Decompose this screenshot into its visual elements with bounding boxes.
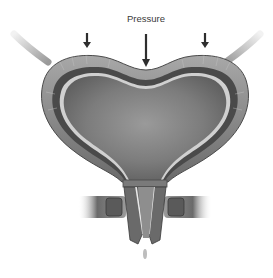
center-pressure-arrow (142, 34, 150, 67)
left-pressure-arrow (83, 33, 91, 48)
pelvic-floor-muscle-right (164, 196, 212, 218)
left-ureter (14, 34, 48, 62)
bladder-illustration: Pressure (0, 0, 273, 278)
pelvic-floor-muscle-left (78, 196, 126, 218)
right-ureter (226, 34, 260, 62)
urethra (124, 187, 166, 244)
bladder-lumen (64, 76, 227, 182)
right-pressure-arrow (201, 33, 209, 48)
urine-droplet (143, 249, 147, 259)
pressure-label: Pressure (127, 13, 165, 24)
bladder-neck (123, 180, 167, 187)
